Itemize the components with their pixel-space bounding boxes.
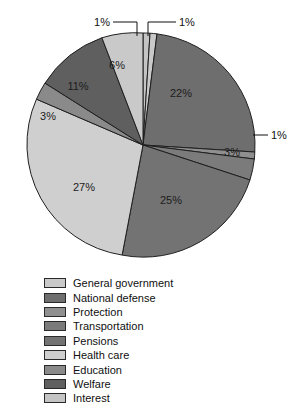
legend-swatch-national-defense xyxy=(44,293,66,303)
pie-slices xyxy=(27,33,255,257)
legend-label-health-care: Health care xyxy=(73,349,129,361)
legend-label-welfare: Welfare xyxy=(73,378,111,390)
callout-label-protection: 1% xyxy=(271,129,287,141)
legend-swatch-interest xyxy=(44,393,66,403)
slice-label-transportation: 3% xyxy=(224,146,240,158)
legend-item-transportation[interactable]: Transportation xyxy=(44,319,274,333)
legend-swatch-health-care xyxy=(44,350,66,360)
legend-item-national-defense[interactable]: National defense xyxy=(44,290,274,304)
pie-chart-svg: 22% 3% 25% 27% 3% 11% 6% 1% 1% 1% xyxy=(0,0,292,272)
legend-swatch-general-government xyxy=(44,278,66,288)
callout-label-general-government: 1% xyxy=(179,16,195,28)
legend-item-protection[interactable]: Protection xyxy=(44,305,274,319)
legend-label-national-defense: National defense xyxy=(73,292,156,304)
legend-swatch-education xyxy=(44,365,66,375)
pie-chart-figure: 22% 3% 25% 27% 3% 11% 6% 1% 1% 1% xyxy=(0,0,292,408)
legend-item-pensions[interactable]: Pensions xyxy=(44,334,274,348)
legend-swatch-welfare xyxy=(44,379,66,389)
legend-item-interest[interactable]: Interest xyxy=(44,391,274,405)
legend-item-health-care[interactable]: Health care xyxy=(44,348,274,362)
legend-swatch-pensions xyxy=(44,336,66,346)
legend-swatch-transportation xyxy=(44,321,66,331)
legend-item-welfare[interactable]: Welfare xyxy=(44,377,274,391)
legend-label-protection: Protection xyxy=(73,306,123,318)
slice-label-welfare: 11% xyxy=(67,80,88,92)
slice-label-education: 3% xyxy=(40,110,56,122)
legend-label-transportation: Transportation xyxy=(73,320,144,332)
pie-chart-plot-area: 22% 3% 25% 27% 3% 11% 6% 1% 1% 1% xyxy=(0,0,292,272)
callout-label-interest: 1% xyxy=(94,16,110,28)
slice-label-pensions: 25% xyxy=(160,194,182,206)
legend-item-education[interactable]: Education xyxy=(44,362,274,376)
chart-legend: General government National defense Prot… xyxy=(44,276,274,406)
legend-label-education: Education xyxy=(73,364,122,376)
slice-label-general-government: 6% xyxy=(109,59,125,71)
slice-label-health-care: 27% xyxy=(73,181,95,193)
legend-label-interest: Interest xyxy=(73,392,110,404)
legend-item-general-government[interactable]: General government xyxy=(44,276,274,290)
legend-swatch-protection xyxy=(44,307,66,317)
slice-label-national-defense: 22% xyxy=(170,87,192,99)
pie-slice-national-defense[interactable] xyxy=(143,34,255,152)
legend-label-general-government: General government xyxy=(73,277,173,289)
legend-label-pensions: Pensions xyxy=(73,335,118,347)
